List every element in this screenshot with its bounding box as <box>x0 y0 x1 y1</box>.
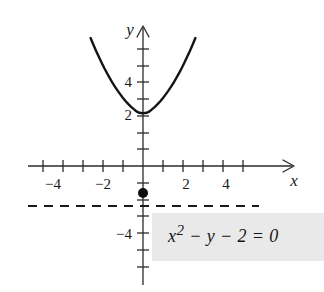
x-tick-label--2: −2 <box>95 176 111 192</box>
vertex-point-marker <box>138 188 148 198</box>
x-tick-label-2: 2 <box>182 176 190 192</box>
x-tick-label-4: 4 <box>222 176 230 192</box>
equation-rest: − y − 2 = 0 <box>184 226 278 246</box>
y-tick-label--4: −4 <box>116 226 132 242</box>
equation-callout-label: x2 − y − 2 = 0 <box>168 222 318 247</box>
y-axis-label: y <box>124 20 134 39</box>
x-axis-label: x <box>289 171 298 190</box>
y-tick-label-4: 4 <box>125 74 133 90</box>
y-tick-label-2: 2 <box>125 107 133 123</box>
x-tick-label--4: −4 <box>45 176 61 192</box>
figure-canvas: −4 −2 2 4 4 2 −4 y x x2 − y − 2 = 0 <box>0 0 324 292</box>
